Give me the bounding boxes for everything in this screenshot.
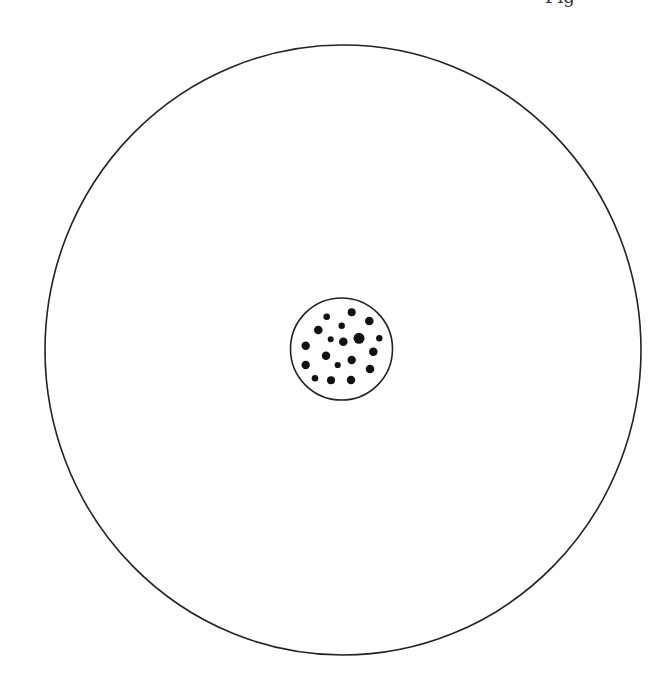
dot xyxy=(348,308,356,316)
dot xyxy=(302,361,310,369)
outer-circle xyxy=(45,45,641,655)
dot xyxy=(335,362,341,368)
dot-cluster xyxy=(302,308,383,384)
dot xyxy=(327,376,335,384)
dot xyxy=(328,336,334,342)
dot xyxy=(348,356,356,364)
dot xyxy=(365,317,374,326)
dot xyxy=(366,365,375,374)
dot xyxy=(302,342,310,350)
concentric-circle-diagram xyxy=(0,0,668,681)
dot xyxy=(322,352,330,360)
dot xyxy=(323,313,330,320)
dot xyxy=(339,323,345,329)
dot xyxy=(339,337,348,346)
dot xyxy=(347,376,355,384)
dot xyxy=(376,335,382,341)
dot xyxy=(369,347,378,356)
dot xyxy=(312,375,319,382)
dot xyxy=(314,326,323,335)
dot xyxy=(354,333,365,344)
